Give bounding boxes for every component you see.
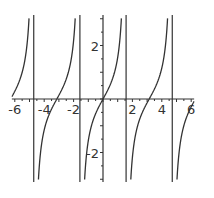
x-tick-label: -4 [38, 102, 51, 117]
axes [12, 15, 194, 182]
y-tick-label: -2 [86, 146, 99, 161]
x-tick-label: -6 [8, 102, 21, 117]
x-tick-label: 4 [158, 102, 166, 117]
x-tick-label: -2 [67, 102, 80, 117]
tan-plot: -6-4-22462-2 [0, 0, 214, 198]
tan-branch [12, 18, 29, 96]
x-tick-label: 2 [128, 102, 136, 117]
x-tick-label: 6 [187, 102, 195, 117]
y-tick-label: 2 [91, 39, 99, 54]
